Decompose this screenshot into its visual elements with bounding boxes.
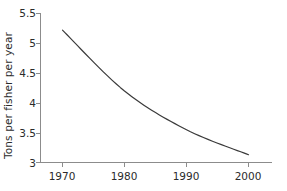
- plot-area: [0, 0, 287, 191]
- x-tick-marks: [63, 163, 249, 168]
- y-tick-marks: [36, 14, 41, 163]
- chart-container: Tons per fisher per year 5.5 5 4.5 4 3.5…: [0, 0, 287, 191]
- data-series-line: [63, 30, 249, 155]
